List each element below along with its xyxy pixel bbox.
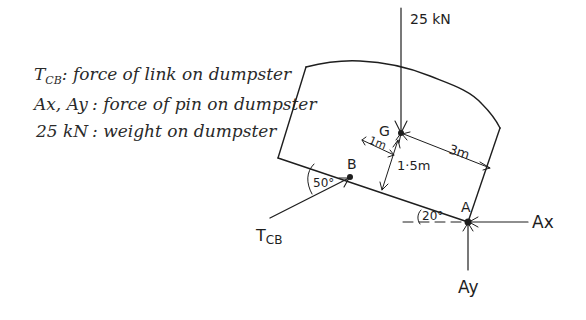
- dumpster-outline: [278, 61, 500, 222]
- legend-line-weight-desc: : weight on dumpster: [92, 121, 277, 141]
- tcb-arrow-line: [270, 178, 349, 218]
- angle-50-label: 50°: [313, 176, 334, 190]
- dim-1-5m-label: 1·5m: [397, 158, 430, 173]
- legend: TCB: force of link on dumpster Ax, Ay : …: [32, 64, 317, 141]
- weight-force: 25 kN: [395, 8, 451, 133]
- point-b-label: B: [347, 156, 357, 172]
- dumpster-right-edge: [468, 128, 500, 222]
- legend-line-axay-desc: : force of pin on dumpster: [92, 94, 317, 114]
- dim-3m-label: 3m: [447, 142, 472, 163]
- legend-line-tcb: TCB: force of link on dumpster: [34, 64, 292, 87]
- dimension-1-5m: 1·5m: [380, 140, 430, 190]
- ay-force: Ay: [458, 223, 479, 297]
- tcb-label: TCB: [255, 226, 282, 247]
- weight-label: 25 kN: [410, 11, 451, 27]
- free-body-diagram: TCB: force of link on dumpster Ax, Ay : …: [0, 0, 586, 320]
- angle-20-label: 20°: [422, 209, 443, 223]
- point-a-label: A: [461, 199, 471, 215]
- ax-label: Ax: [532, 212, 554, 232]
- point-b: B: [347, 156, 357, 180]
- legend-line-weight: 25 kN: [35, 121, 89, 141]
- ax-force: Ax: [469, 212, 554, 232]
- legend-line-axay: Ax, Ay: [32, 94, 88, 114]
- ay-label: Ay: [458, 277, 479, 297]
- dumpster-top-edge: [306, 61, 500, 128]
